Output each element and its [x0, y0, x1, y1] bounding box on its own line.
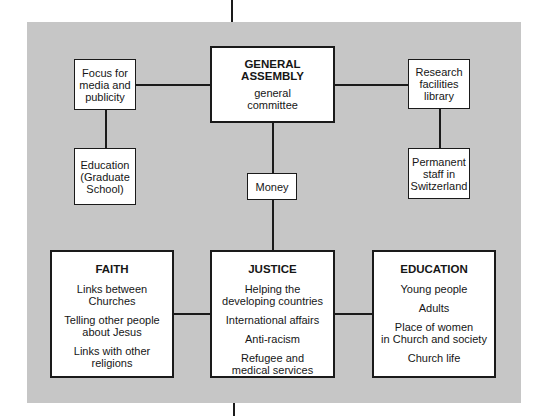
media-publicity-label: Focus for media and publicity — [79, 67, 130, 103]
connector-faith-justice — [173, 313, 210, 315]
graduate-school-box: Education (Graduate School) — [74, 148, 136, 205]
graduate-school-label: Education (Graduate School) — [80, 159, 130, 195]
connector-research-staff — [439, 109, 441, 148]
education-item: Church life — [408, 352, 461, 364]
research-library-label: Research facilities library — [415, 66, 462, 102]
connector-assembly-money — [272, 122, 274, 173]
education-box: EDUCATION Young people Adults Place of w… — [372, 250, 496, 378]
education-item: Adults — [419, 302, 450, 314]
connector-assembly-research — [335, 84, 408, 86]
justice-item: International affairs — [226, 314, 319, 326]
connector-justice-education — [335, 313, 372, 315]
connector-bottom-stub — [233, 403, 235, 416]
education-item: Place of women in Church and society — [381, 321, 487, 345]
connector-top-stub — [231, 0, 233, 22]
faith-item: Links with other religions — [74, 345, 150, 369]
media-publicity-box: Focus for media and publicity — [74, 59, 136, 110]
connector-money-justice — [272, 200, 274, 250]
permanent-staff-box: Permanent staff in Switzerland — [408, 148, 470, 199]
general-assembly-title: GENERAL ASSEMBLY — [241, 58, 304, 82]
money-box: Money — [247, 173, 297, 200]
general-assembly-box: GENERAL ASSEMBLY general committee — [210, 46, 335, 123]
justice-item: Anti-racism — [245, 333, 300, 345]
connector-focus-assembly — [136, 84, 210, 86]
money-label: Money — [255, 181, 288, 193]
justice-box: JUSTICE Helping the developing countries… — [210, 250, 335, 378]
justice-title: JUSTICE — [248, 263, 297, 275]
justice-item: Helping the developing countries — [222, 283, 323, 307]
general-committee-label: general committee — [247, 87, 298, 111]
faith-item: Telling other people about Jesus — [64, 314, 159, 338]
research-library-box: Research facilities library — [408, 59, 470, 109]
education-title: EDUCATION — [400, 263, 468, 275]
justice-item: Refugee and medical services — [232, 352, 313, 376]
faith-item: Links between Churches — [77, 283, 147, 307]
permanent-staff-label: Permanent staff in Switzerland — [411, 156, 468, 192]
education-item: Young people — [401, 283, 468, 295]
connector-focus-education — [105, 110, 107, 148]
faith-title: FAITH — [95, 263, 128, 275]
faith-box: FAITH Links between Churches Telling oth… — [50, 250, 174, 378]
